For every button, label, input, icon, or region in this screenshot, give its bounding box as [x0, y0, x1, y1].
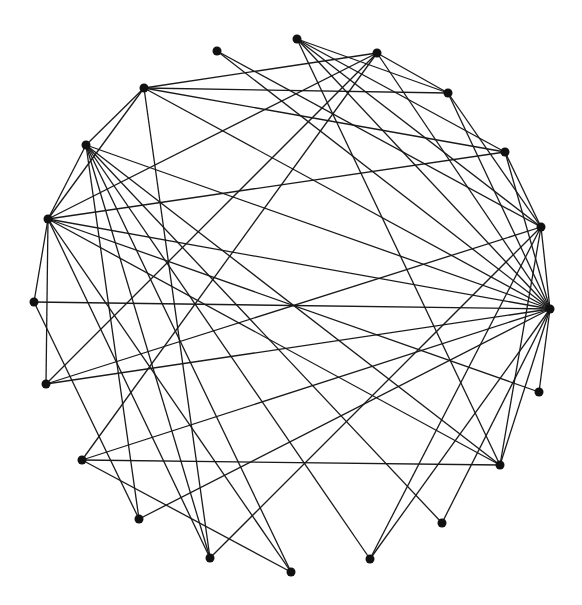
edge-S-J: [86, 145, 442, 523]
node-A: [213, 47, 222, 56]
edge-C-D: [377, 53, 448, 93]
edge-B-D: [297, 39, 448, 93]
node-C: [373, 49, 382, 58]
edge-D-F: [448, 93, 541, 227]
node-J: [438, 519, 447, 528]
edge-S-R: [48, 145, 86, 219]
node-F: [537, 223, 546, 232]
edge-D-G: [448, 93, 550, 309]
edge-T-S: [86, 88, 144, 145]
edge-B-F: [297, 39, 541, 227]
node-I: [496, 461, 505, 470]
network-graph: [0, 0, 582, 605]
node-L: [287, 568, 296, 577]
edge-O-L: [82, 460, 291, 572]
node-M: [206, 554, 215, 563]
node-T: [140, 84, 149, 93]
node-Q: [30, 298, 39, 307]
edge-O-I: [82, 460, 500, 465]
edge-B-E: [297, 39, 505, 152]
edge-R-G: [48, 219, 550, 309]
edge-K-F: [370, 227, 541, 559]
graph-edges: [34, 39, 550, 572]
node-H: [535, 388, 544, 397]
edge-S-G: [86, 145, 550, 309]
edge-R-Q: [34, 219, 48, 302]
node-D: [444, 89, 453, 98]
edge-J-G: [442, 309, 550, 523]
edge-I-G: [500, 309, 550, 465]
edge-O-G: [82, 309, 550, 460]
edge-A-F: [217, 51, 541, 227]
edge-R-I: [48, 219, 500, 465]
node-E: [501, 148, 510, 157]
node-K: [366, 555, 375, 564]
edge-M-F: [210, 227, 541, 558]
edge-P-G: [46, 309, 550, 384]
node-P: [42, 380, 51, 389]
node-G: [546, 305, 555, 314]
edge-A-G: [217, 51, 550, 309]
edge-R-E: [48, 152, 505, 219]
node-R: [44, 215, 53, 224]
edge-R-P: [46, 219, 48, 384]
edge-K-G: [370, 309, 550, 559]
node-B: [293, 35, 302, 44]
edge-N-G: [139, 309, 550, 519]
node-O: [78, 456, 87, 465]
node-N: [135, 515, 144, 524]
node-S: [82, 141, 91, 150]
edge-P-F: [46, 227, 541, 384]
